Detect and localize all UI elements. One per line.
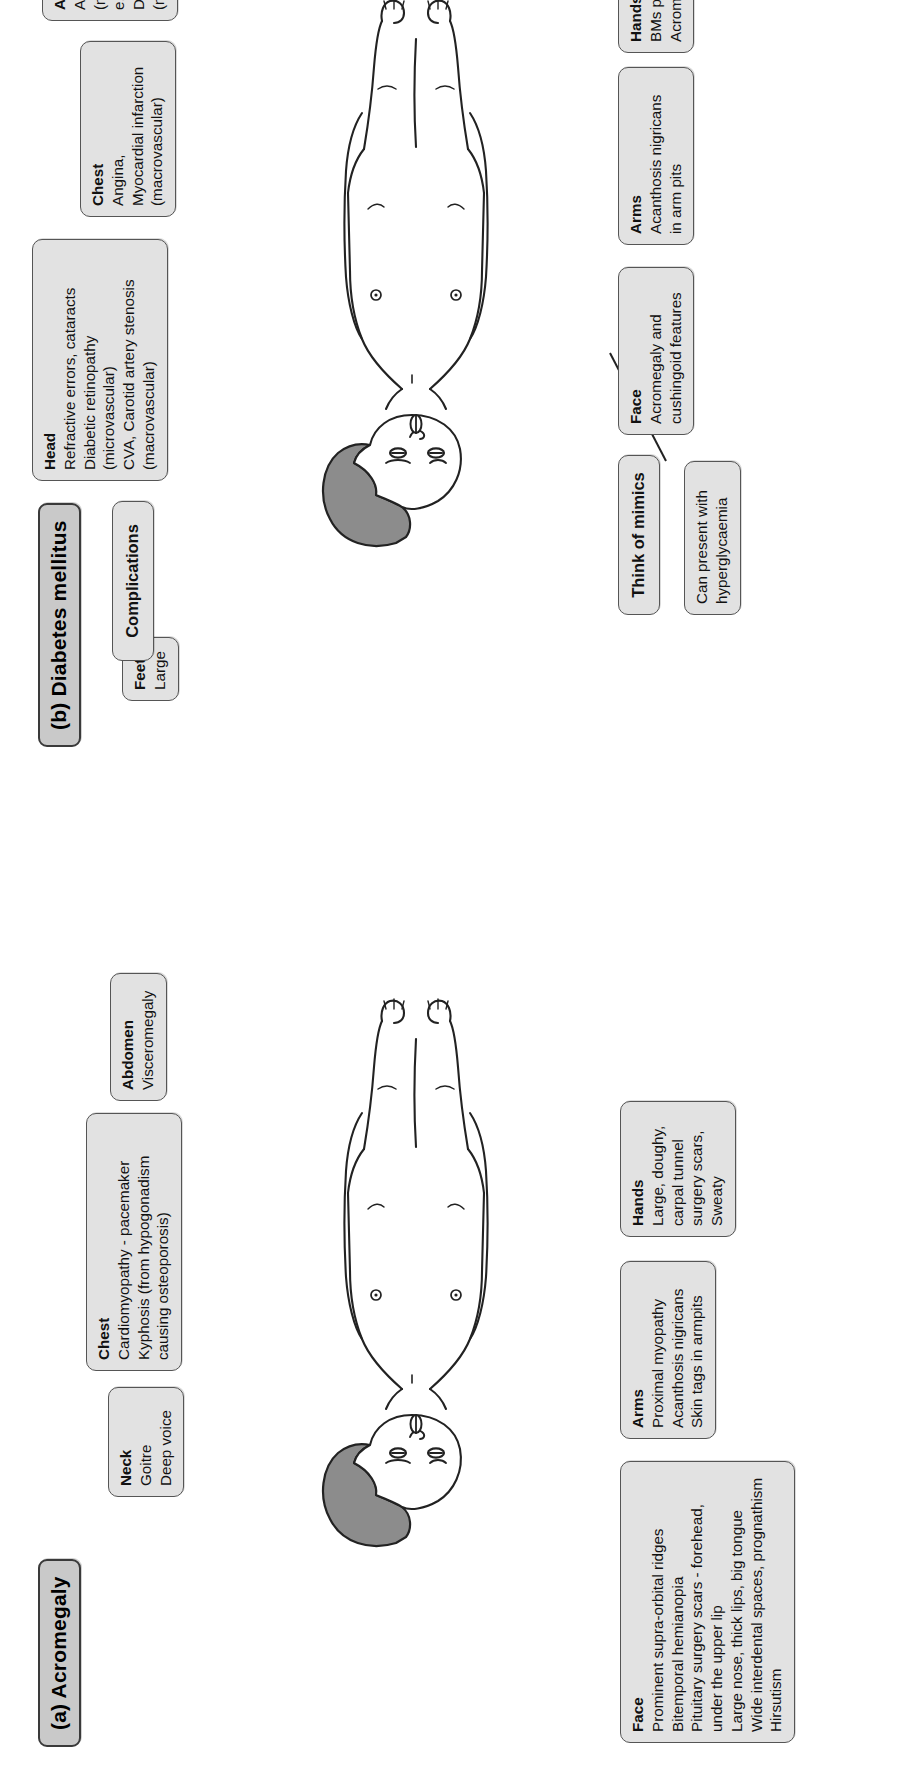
box-line: (microvascular) — [90, 0, 110, 10]
box-line: causing osteoporosis) — [153, 1124, 173, 1360]
box-line: Autonomic neuropathy — [70, 0, 90, 10]
box-line: Visceromegaly — [138, 984, 158, 1090]
box-header: Head — [40, 250, 60, 470]
box-line: Acanthosis nigricans — [646, 78, 666, 234]
box-header: Arms — [628, 1272, 648, 1428]
box-neck-acromegaly: Neck Goitre Deep voice — [108, 1387, 184, 1497]
box-line: Wide interdental spaces, prognathism — [747, 1472, 767, 1732]
box-line: Prominent supra-orbital ridges — [648, 1472, 668, 1732]
box-line: Pituitary surgery scars - forehead, — [687, 1472, 707, 1732]
box-line: in arm pits — [666, 78, 686, 234]
box-line: cushingoid features — [666, 278, 686, 424]
box-arms-diabetes: Arms Acanthosis nigricans in arm pits — [618, 67, 694, 245]
box-header: Chest — [88, 52, 108, 206]
box-header: Face — [626, 278, 646, 424]
box-line: Diabetic nephropathy — [129, 0, 149, 10]
box-presentation-diabetes: Can present with hyperglycaemia — [684, 461, 741, 615]
box-line: (macrovascular) — [147, 52, 167, 206]
box-line: Hirsutism — [766, 1472, 786, 1732]
box-hands-diabetes: Hands BMs pinprick scars Acromegaly feat… — [618, 0, 694, 53]
box-line: Acromegaly features — [666, 0, 686, 42]
box-line: Acanthosis nigricans — [668, 1272, 688, 1428]
box-line: Large, doughy, — [648, 1112, 668, 1226]
box-header: Abdomen — [50, 0, 70, 10]
label-think-of-mimics: Think of mimics — [618, 455, 660, 615]
box-line: BMs pinprick scars — [646, 0, 666, 42]
box-line: (microvascular) — [149, 0, 169, 10]
box-line: Large nose, thick lips, big tongue — [727, 1472, 747, 1732]
human-body-outline-icon — [250, 0, 580, 595]
box-header: Arms — [626, 78, 646, 234]
box-line: Bitemporal hemianopia — [668, 1472, 688, 1732]
box-chest-diabetes: Chest Angina, Myocardial infarction (mac… — [80, 41, 176, 217]
box-line: under the upper lip — [707, 1472, 727, 1732]
box-line: hyperglycaemia — [712, 472, 732, 604]
box-hands-acromegaly: Hands Large, doughy, carpal tunnel surge… — [620, 1101, 736, 1237]
box-head-diabetes: Head Refractive errors, cataracts Diabet… — [32, 239, 168, 481]
box-face-acromegaly: Face Prominent supra-orbital ridges Bite… — [620, 1461, 795, 1743]
box-line: Cardiomyopathy - pacemaker — [114, 1124, 134, 1360]
label-text: Think of mimics — [628, 472, 649, 598]
box-line: Angina, — [108, 52, 128, 206]
panel-acromegaly: (a) Acromegaly — [0, 885, 904, 1765]
box-line: Deep voice — [156, 1398, 176, 1486]
box-face-diabetes: Face Acromegaly and cushingoid features — [618, 267, 694, 435]
body-figure-acromegaly — [250, 995, 580, 1595]
box-line: (microvascular) — [99, 250, 119, 470]
box-line: Diabetic retinopathy — [80, 250, 100, 470]
box-line: Goitre — [136, 1398, 156, 1486]
box-line: Sweaty — [707, 1112, 727, 1226]
box-line: Kyphosis (from hypogonadism — [134, 1124, 154, 1360]
box-abdomen-diabetes: Abdomen Autonomic neuropathy (microvascu… — [42, 0, 178, 21]
panel-b-title: (b) Diabetes mellitus — [38, 503, 81, 747]
box-header: Neck — [116, 1398, 136, 1486]
box-arms-acromegaly: Arms Proximal myopathy Acanthosis nigric… — [620, 1261, 716, 1439]
box-line: Acromegaly and — [646, 278, 666, 424]
box-abdomen-acromegaly: Abdomen Visceromegaly — [110, 973, 167, 1101]
box-line: Can present with — [692, 472, 712, 604]
label-complications: Complications — [112, 501, 154, 661]
box-header: Abdomen — [118, 984, 138, 1090]
box-header: Hands — [626, 0, 646, 42]
box-line: Skin tags in armpits — [687, 1272, 707, 1428]
label-text: Complications — [122, 524, 143, 638]
body-figure-diabetes — [250, 0, 580, 595]
figure-stage: (a) Acromegaly — [0, 0, 904, 1765]
box-line: Myocardial infarction — [128, 52, 148, 206]
box-line: CVA, Carotid artery stenosis — [119, 250, 139, 470]
panel-a-title: (a) Acromegaly — [38, 1559, 81, 1747]
box-line: surgery scars, — [687, 1112, 707, 1226]
panel-diabetes-mellitus: (b) Diabetes mellitus — [0, 0, 904, 765]
box-line: carpal tunnel — [668, 1112, 688, 1226]
box-line: Proximal myopathy — [648, 1272, 668, 1428]
box-chest-acromegaly: Chest Cardiomyopathy - pacemaker Kyphosi… — [86, 1113, 182, 1371]
box-line: (macrovascular) — [139, 250, 159, 470]
box-line: e.g. Gastroparesis — [109, 0, 129, 10]
box-header: Chest — [94, 1124, 114, 1360]
box-line: Refractive errors, cataracts — [60, 250, 80, 470]
human-body-outline-icon — [250, 995, 580, 1595]
box-header: Face — [628, 1472, 648, 1732]
box-header: Hands — [628, 1112, 648, 1226]
